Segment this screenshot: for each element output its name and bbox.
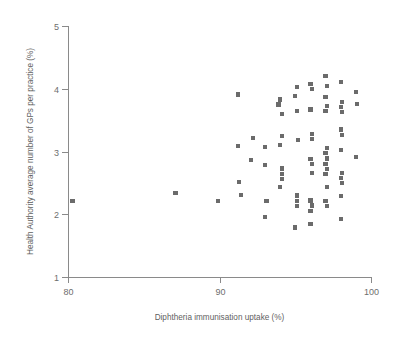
data-point xyxy=(354,155,358,159)
data-point xyxy=(280,112,284,116)
data-points xyxy=(70,74,359,229)
data-point xyxy=(251,136,255,140)
data-point xyxy=(340,181,344,185)
data-point xyxy=(310,132,314,136)
data-point xyxy=(264,199,268,203)
data-point xyxy=(323,199,327,203)
data-point xyxy=(339,80,343,84)
data-point xyxy=(325,146,329,150)
data-point xyxy=(310,162,314,166)
data-point xyxy=(308,209,312,213)
data-point xyxy=(310,87,314,91)
x-axis-title: Diphtheria immunisation uptake (%) xyxy=(155,313,285,322)
data-point xyxy=(293,225,297,229)
x-tick-label-80: 80 xyxy=(63,287,73,297)
x-tick-label-90: 90 xyxy=(215,287,225,297)
data-point xyxy=(325,104,329,108)
y-tick-label-2: 2 xyxy=(54,210,59,220)
data-point xyxy=(323,172,327,176)
data-point xyxy=(323,95,327,99)
data-point xyxy=(339,127,343,131)
data-point xyxy=(276,102,280,106)
y-tick-label-1: 1 xyxy=(54,273,59,283)
data-point xyxy=(310,203,314,207)
data-point xyxy=(295,85,299,89)
data-point xyxy=(339,148,343,152)
y-tick-label-4: 4 xyxy=(54,85,59,95)
data-point xyxy=(173,191,177,195)
data-point xyxy=(340,133,344,137)
data-point xyxy=(340,100,344,104)
data-point xyxy=(249,158,253,162)
data-point xyxy=(323,109,327,113)
x-tick-label-100: 100 xyxy=(364,287,379,297)
data-point xyxy=(216,199,220,203)
data-point xyxy=(280,134,284,138)
data-point xyxy=(308,198,312,202)
data-point xyxy=(293,94,297,98)
data-point xyxy=(70,199,74,203)
data-point xyxy=(323,151,327,155)
data-point xyxy=(278,97,282,101)
data-point xyxy=(295,193,299,197)
data-point xyxy=(295,109,299,113)
data-point xyxy=(339,194,343,198)
data-point xyxy=(239,193,243,197)
data-point xyxy=(236,144,240,148)
data-point xyxy=(323,162,327,166)
data-point xyxy=(339,105,343,109)
data-point xyxy=(325,204,329,208)
data-point xyxy=(325,156,329,160)
y-tick-label-3: 3 xyxy=(54,148,59,158)
data-point xyxy=(323,74,327,78)
plot-area: 123458090100Diphtheria immunisation upta… xyxy=(0,0,402,338)
data-point xyxy=(295,199,299,203)
data-point xyxy=(310,137,314,141)
data-point xyxy=(339,176,343,180)
data-point xyxy=(354,90,358,94)
y-axis-title: Health Authority average number of GPs p… xyxy=(26,48,35,255)
data-point xyxy=(325,84,329,88)
data-point xyxy=(310,171,314,175)
data-point xyxy=(263,145,267,149)
data-point xyxy=(339,217,343,221)
data-point xyxy=(280,177,284,181)
data-point xyxy=(263,163,267,167)
data-point xyxy=(355,102,359,106)
data-point xyxy=(296,138,300,142)
data-point xyxy=(280,166,284,170)
data-point xyxy=(325,167,329,171)
data-point xyxy=(308,157,312,161)
data-point xyxy=(237,180,241,184)
data-point xyxy=(308,222,312,226)
data-point xyxy=(278,185,282,189)
data-point xyxy=(340,110,344,114)
data-point xyxy=(236,92,240,96)
data-point xyxy=(280,172,284,176)
data-point xyxy=(308,82,312,86)
data-point xyxy=(295,204,299,208)
data-point xyxy=(278,143,282,147)
data-point xyxy=(308,107,312,111)
data-point xyxy=(325,185,329,189)
scatter-chart: 123458090100Diphtheria immunisation upta… xyxy=(0,0,402,338)
y-tick-label-5: 5 xyxy=(54,22,59,32)
data-point xyxy=(340,171,344,175)
data-point xyxy=(263,215,267,219)
